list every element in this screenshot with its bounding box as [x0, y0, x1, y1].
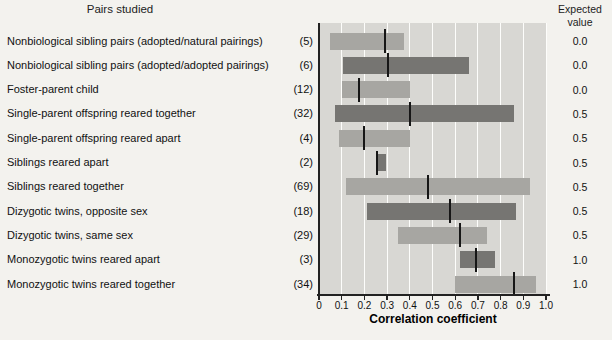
y-axis-line — [318, 23, 320, 295]
row-study-count: (69) — [293, 180, 313, 193]
row-label: Nonbiological sibling pairs (adopted/ado… — [7, 59, 269, 72]
row-label: Nonbiological sibling pairs (adopted/nat… — [7, 35, 263, 48]
axis-tick — [318, 296, 319, 300]
row-study-count: (4) — [300, 132, 313, 145]
row-label: Foster-parent child — [7, 83, 99, 96]
row-study-count: (5) — [300, 35, 313, 48]
range-bar — [330, 33, 404, 50]
median-line — [376, 151, 378, 175]
axis-tick — [500, 296, 501, 300]
expected-value: 0.0 — [549, 59, 611, 71]
expected-value: 0.5 — [549, 108, 611, 120]
chart-plot-area — [319, 23, 547, 294]
row-label: Dizygotic twins, same sex — [7, 229, 133, 242]
tick-label: 1.0 — [531, 300, 561, 311]
range-bar — [335, 105, 514, 122]
axis-tick — [477, 296, 478, 300]
median-line — [475, 248, 477, 272]
gridline — [523, 23, 524, 294]
row-label-line: Monozygotic twins reared together(34) — [7, 278, 313, 291]
correlation-coefficient-figure: Pairs studied Expected value Correlation… — [0, 0, 612, 340]
x-axis-line — [317, 294, 550, 296]
row-label: Monozygotic twins reared together — [7, 278, 175, 291]
median-line — [449, 199, 451, 223]
axis-tick — [341, 296, 342, 300]
row-label: Dizygotic twins, opposite sex — [7, 205, 148, 218]
row-label-line: Single-parent offspring reared apart(4) — [7, 132, 313, 145]
row-label-line: Siblings reared together(69) — [7, 180, 313, 193]
row-study-count: (6) — [300, 59, 313, 72]
axis-tick — [432, 296, 433, 300]
gridline — [546, 23, 547, 294]
median-line — [427, 175, 429, 199]
range-bar — [455, 276, 536, 293]
gridline — [500, 23, 501, 294]
row-label-line: Dizygotic twins, opposite sex(18) — [7, 205, 313, 218]
range-bar — [460, 251, 495, 268]
axis-tick — [523, 296, 524, 300]
expected-value: 0.0 — [549, 35, 611, 47]
median-line — [358, 78, 360, 102]
range-bar — [339, 130, 409, 147]
range-bar — [367, 203, 517, 220]
expected-value: 0.5 — [549, 132, 611, 144]
row-label-line: Dizygotic twins, same sex(29) — [7, 229, 313, 242]
row-label-line: Siblings reared apart(2) — [7, 156, 313, 169]
expected-value: 1.0 — [549, 254, 611, 266]
median-line — [513, 272, 515, 296]
expected-value: 1.0 — [549, 278, 611, 290]
axis-tick — [409, 296, 410, 300]
range-bar — [343, 57, 469, 74]
range-bar — [342, 81, 410, 98]
row-label-line: Monozygotic twins reared apart(3) — [7, 253, 313, 266]
row-label: Siblings reared apart — [7, 156, 109, 169]
row-study-count: (12) — [293, 83, 313, 96]
row-study-count: (29) — [293, 229, 313, 242]
median-line — [384, 29, 386, 53]
axis-tick — [364, 296, 365, 300]
row-study-count: (2) — [300, 156, 313, 169]
median-line — [387, 53, 389, 77]
expected-value: 0.5 — [549, 157, 611, 169]
expected-value: 0.5 — [549, 181, 611, 193]
row-label: Single-parent offspring reared together — [7, 107, 196, 120]
row-label: Siblings reared together — [7, 180, 124, 193]
pairs-studied-header: Pairs studied — [30, 3, 210, 15]
row-label-line: Single-parent offspring reared together(… — [7, 107, 313, 120]
range-bar — [398, 227, 487, 244]
row-label-line: Nonbiological sibling pairs (adopted/nat… — [7, 35, 313, 48]
expected-value-header: Expected value — [549, 3, 611, 28]
range-bar — [346, 178, 530, 195]
x-axis-title: Correlation coefficient — [319, 312, 547, 326]
axis-tick — [386, 296, 387, 300]
expected-value: 0.5 — [549, 205, 611, 217]
row-label-line: Nonbiological sibling pairs (adopted/ado… — [7, 59, 313, 72]
row-study-count: (32) — [293, 107, 313, 120]
median-line — [409, 102, 411, 126]
axis-tick — [455, 296, 456, 300]
expected-value: 0.0 — [549, 84, 611, 96]
row-label: Single-parent offspring reared apart — [7, 132, 180, 145]
row-study-count: (34) — [293, 278, 313, 291]
row-study-count: (18) — [293, 205, 313, 218]
row-label: Monozygotic twins reared apart — [7, 253, 160, 266]
median-line — [459, 223, 461, 247]
row-label-line: Foster-parent child(12) — [7, 83, 313, 96]
row-study-count: (3) — [300, 253, 313, 266]
median-line — [363, 126, 365, 150]
axis-tick — [545, 296, 546, 300]
expected-value: 0.5 — [549, 229, 611, 241]
